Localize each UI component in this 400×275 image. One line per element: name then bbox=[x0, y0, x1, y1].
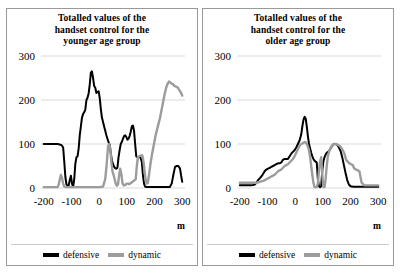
x-tick-label: 300 bbox=[174, 195, 191, 207]
plot-svg-younger: 0100200300-200-1000100200300 bbox=[7, 48, 197, 208]
x-tick-label: 300 bbox=[370, 195, 387, 207]
x-tick-label: -200 bbox=[34, 195, 55, 207]
series-line-dynamic bbox=[240, 142, 378, 187]
chart-panel-younger: Totalled values of the handset control f… bbox=[6, 8, 198, 266]
chart-title-older: Totalled values of the handset control f… bbox=[203, 9, 393, 48]
legend-label-defensive: defensive bbox=[63, 250, 99, 260]
legend-swatch-dynamic-icon bbox=[108, 253, 124, 257]
x-tick-label: -100 bbox=[257, 195, 278, 207]
x-tick-label: 200 bbox=[342, 195, 359, 207]
chart-title-younger: Totalled values of the handset control f… bbox=[7, 9, 197, 48]
x-tick-label: 0 bbox=[96, 195, 102, 207]
x-tick-label: -100 bbox=[61, 195, 82, 207]
x-axis-unit-younger: m bbox=[177, 221, 185, 231]
legend-older: defensive dynamic bbox=[207, 244, 389, 260]
x-tick-label: 0 bbox=[292, 195, 298, 207]
chart-title-line-3: older age group bbox=[213, 36, 383, 48]
figure-root: Totalled values of the handset control f… bbox=[0, 0, 400, 275]
chart-title-line-2: handset control for the bbox=[17, 25, 187, 37]
legend-item-defensive: defensive bbox=[239, 250, 295, 260]
chart-title-line-1: Totalled values of the bbox=[213, 13, 383, 25]
plot-area-older: 0100200300-200-1000100200300 bbox=[203, 48, 393, 208]
chart-title-line-3: younger age group bbox=[17, 36, 187, 48]
legend-younger: defensive dynamic bbox=[11, 244, 193, 260]
y-tick-label: 200 bbox=[19, 94, 36, 106]
legend-swatch-defensive-icon bbox=[239, 253, 255, 257]
x-tick-label: 100 bbox=[315, 195, 332, 207]
y-tick-label: 0 bbox=[226, 182, 232, 194]
y-tick-label: 100 bbox=[215, 138, 232, 150]
y-tick-label: 100 bbox=[19, 138, 36, 150]
legend-label-dynamic: dynamic bbox=[128, 250, 161, 260]
y-tick-label: 0 bbox=[30, 182, 36, 194]
y-tick-label: 300 bbox=[215, 50, 232, 62]
chart-title-line-2: handset control for the bbox=[213, 25, 383, 37]
legend-swatch-dynamic-icon bbox=[304, 253, 320, 257]
y-tick-label: 200 bbox=[215, 94, 232, 106]
plot-svg-older: 0100200300-200-1000100200300 bbox=[203, 48, 393, 208]
legend-swatch-defensive-icon bbox=[43, 253, 59, 257]
chart-panel-older: Totalled values of the handset control f… bbox=[202, 8, 394, 266]
legend-item-dynamic: dynamic bbox=[304, 250, 357, 260]
x-axis-unit-older: m bbox=[373, 221, 381, 231]
chart-title-line-1: Totalled values of the bbox=[17, 13, 187, 25]
x-tick-label: -200 bbox=[230, 195, 251, 207]
x-tick-label: 200 bbox=[146, 195, 163, 207]
legend-label-defensive: defensive bbox=[259, 250, 295, 260]
x-tick-label: 100 bbox=[119, 195, 136, 207]
legend-item-defensive: defensive bbox=[43, 250, 99, 260]
y-tick-label: 300 bbox=[19, 50, 36, 62]
legend-item-dynamic: dynamic bbox=[108, 250, 161, 260]
plot-area-younger: 0100200300-200-1000100200300 bbox=[7, 48, 197, 208]
legend-label-dynamic: dynamic bbox=[324, 250, 357, 260]
